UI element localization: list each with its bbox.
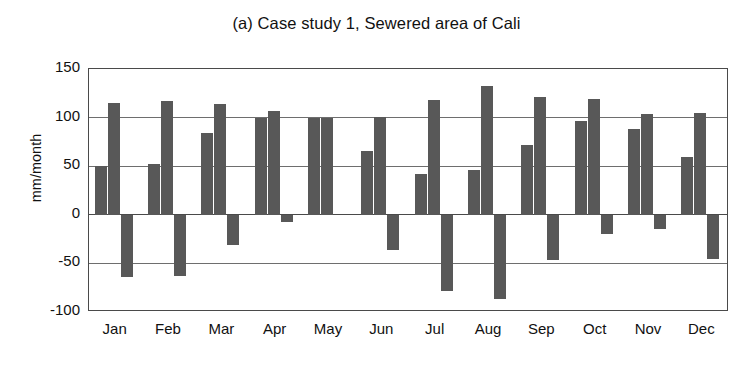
bar-series-2-apr (268, 111, 280, 215)
bar-series-2-mar (214, 104, 226, 215)
x-tick-label-oct: Oct (568, 320, 621, 337)
y-tick-label: 0 (28, 204, 80, 221)
gridline (89, 117, 727, 118)
bar-series-3-jul (441, 215, 453, 291)
bar-series-2-sep (534, 97, 546, 215)
y-tick-label: 50 (28, 155, 80, 172)
bar-series-1-may (308, 118, 320, 215)
bar-series-3-jun (387, 215, 399, 250)
bar-series-2-feb (161, 101, 173, 215)
bar-series-2-nov (641, 114, 653, 215)
x-tick-label-aug: Aug (461, 320, 514, 337)
y-tick-label: 100 (28, 107, 80, 124)
bar-series-3-oct (601, 215, 613, 234)
bar-series-3-aug (494, 215, 506, 300)
plot-area (88, 68, 728, 311)
bar-series-2-dec (694, 113, 706, 215)
bar-series-3-jan (121, 215, 133, 277)
bar-series-2-aug (481, 86, 493, 214)
x-tick-label-may: May (301, 320, 354, 337)
bar-series-1-jan (95, 166, 107, 215)
chart-figure: (a) Case study 1, Sewered area of Cali m… (0, 0, 753, 368)
y-tick-label: -100 (28, 301, 80, 318)
x-tick-label-mar: Mar (195, 320, 248, 337)
bar-series-1-jun (361, 151, 373, 215)
x-tick-label-apr: Apr (248, 320, 301, 337)
chart-title: (a) Case study 1, Sewered area of Cali (0, 14, 753, 33)
bar-series-1-apr (255, 118, 267, 215)
bar-series-3-nov (654, 215, 666, 230)
bar-series-1-mar (201, 133, 213, 215)
bar-series-1-nov (628, 129, 640, 215)
x-tick-label-dec: Dec (675, 320, 728, 337)
bar-series-2-oct (588, 99, 600, 215)
bar-series-3-mar (227, 215, 239, 245)
y-tick-label: -50 (28, 252, 80, 269)
x-tick-label-sep: Sep (515, 320, 568, 337)
bar-series-1-jul (415, 174, 427, 215)
bar-series-3-sep (547, 215, 559, 260)
bar-series-3-apr (281, 215, 293, 222)
bar-series-1-aug (468, 170, 480, 215)
bar-series-3-feb (174, 215, 186, 276)
x-axis-tick-labels: JanFebMarAprMayJunJulAugSepOctNovDec (88, 320, 728, 344)
x-tick-label-jun: Jun (355, 320, 408, 337)
y-tick-label: 150 (28, 58, 80, 75)
bar-series-2-jan (108, 103, 120, 215)
bar-series-2-jun (374, 117, 386, 215)
bar-series-1-sep (521, 145, 533, 215)
bar-series-3-dec (707, 215, 719, 259)
bar-series-1-oct (575, 121, 587, 215)
x-tick-label-jan: Jan (88, 320, 141, 337)
bar-series-1-feb (148, 164, 160, 215)
x-tick-label-nov: Nov (621, 320, 674, 337)
bar-series-1-dec (681, 157, 693, 214)
bar-series-2-jul (428, 100, 440, 215)
x-tick-label-jul: Jul (408, 320, 461, 337)
bar-series-2-may (321, 118, 333, 215)
x-tick-label-feb: Feb (141, 320, 194, 337)
